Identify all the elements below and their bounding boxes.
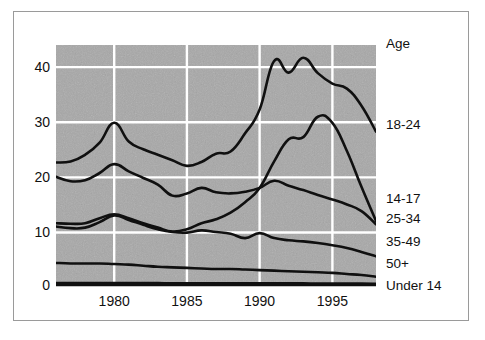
x-tick-1990: 1990 bbox=[244, 293, 275, 309]
legend-label-50plus: 50+ bbox=[386, 256, 409, 271]
y-axis-tick-labels: 40 30 20 10 0 bbox=[34, 59, 50, 293]
legend-label-under-14: Under 14 bbox=[386, 278, 442, 293]
legend-label-25-34: 25-34 bbox=[386, 211, 421, 226]
y-tick-40: 40 bbox=[34, 59, 50, 75]
y-tick-10: 10 bbox=[34, 224, 50, 240]
x-tick-1995: 1995 bbox=[317, 293, 348, 309]
x-tick-1980: 1980 bbox=[99, 293, 130, 309]
legend: Age 18-24 14-17 25-34 35-49 50+ Under 14 bbox=[386, 36, 442, 293]
legend-label-18-24: 18-24 bbox=[386, 117, 421, 132]
legend-title: Age bbox=[386, 36, 410, 51]
legend-label-14-17: 14-17 bbox=[386, 191, 421, 206]
y-tick-30: 30 bbox=[34, 114, 50, 130]
y-tick-20: 20 bbox=[34, 169, 50, 185]
legend-label-35-49: 35-49 bbox=[386, 234, 421, 249]
x-tick-1985: 1985 bbox=[171, 293, 202, 309]
y-tick-0: 0 bbox=[42, 277, 50, 293]
x-axis-tick-labels: 1980 1985 1990 1995 bbox=[99, 293, 349, 309]
line-chart: 40 30 20 10 0 1980 1985 1990 1995 Age 18… bbox=[0, 0, 485, 340]
